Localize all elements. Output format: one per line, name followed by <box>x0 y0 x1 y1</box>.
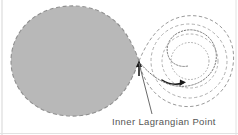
leader-line-segment <box>139 63 152 114</box>
accretion-stream-path <box>139 30 216 87</box>
disk-ring-middle <box>162 34 218 88</box>
donor-lobe-path <box>11 6 139 116</box>
accretor-lobe-path <box>139 16 234 107</box>
roche-lobe-diagram: Inner Lagrangian Point <box>0 0 238 135</box>
accretion-stream <box>139 30 216 87</box>
rotation-arrow-head <box>180 79 187 86</box>
disk-ring-inner <box>171 43 209 80</box>
leader-line <box>139 63 152 114</box>
diagram-canvas <box>0 0 238 135</box>
inner-lagrangian-point-label: Inner Lagrangian Point <box>112 116 216 127</box>
donor-star-lobe <box>11 6 139 116</box>
accretor-lobe <box>139 16 234 107</box>
